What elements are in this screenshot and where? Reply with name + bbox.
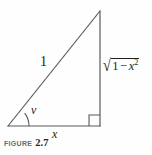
hypotenuse-label: 1: [40, 55, 47, 69]
radicand-group: 1−x2: [111, 58, 139, 73]
minus-operator: −: [119, 59, 129, 73]
angle-label: v: [31, 104, 36, 116]
figure-caption-number: 2.7: [35, 137, 48, 148]
base-label: x: [52, 128, 57, 140]
figure-container: 1 v x √ 1−x2 FIGURE 2.7: [0, 0, 152, 155]
radical-sign-icon: √: [103, 58, 111, 74]
angle-arc: [25, 113, 29, 126]
vertical-leg-label: √ 1−x2: [103, 58, 139, 74]
figure-caption-word: FIGURE: [4, 140, 32, 147]
right-triangle-diagram: [0, 0, 152, 155]
right-angle-marker: [89, 115, 100, 126]
hypotenuse-line: [8, 11, 100, 126]
radicand-first-term: 1: [112, 59, 118, 73]
figure-caption: FIGURE 2.7: [4, 137, 48, 148]
radicand-exponent: 2: [134, 58, 138, 67]
